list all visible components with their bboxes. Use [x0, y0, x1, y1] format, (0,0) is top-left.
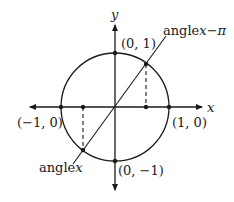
x-axis-label: x [207, 100, 215, 115]
point-bottom [113, 159, 117, 163]
point-x-axis-right-proj [144, 105, 148, 109]
point-left [59, 105, 63, 109]
label-angle-x-minus-pi: anglex−π [163, 23, 227, 38]
angle-var: x−π [199, 23, 226, 38]
label-top-point: (0, 1) [121, 36, 156, 51]
point-x-axis-left-proj [81, 105, 85, 109]
point-top [113, 51, 117, 55]
label-angle-x: anglex [39, 160, 83, 175]
point-angle-x-minus-pi [144, 62, 148, 66]
point-right [167, 105, 171, 109]
y-axis-label: y [110, 7, 119, 22]
label-left-point: (−1, 0) [17, 115, 63, 130]
angle-word: angle [39, 160, 76, 175]
label-bottom-point: (0, −1) [118, 163, 164, 178]
angle-word: angle [163, 23, 200, 38]
angle-line [73, 36, 166, 164]
angle-var: x [75, 160, 83, 175]
point-angle-x [81, 148, 85, 152]
unit-circle-diagram: y x (0, 1) (0, −1) (−1, 0) (1, 0) anglex… [0, 0, 234, 202]
label-right-point: (1, 0) [172, 115, 207, 130]
